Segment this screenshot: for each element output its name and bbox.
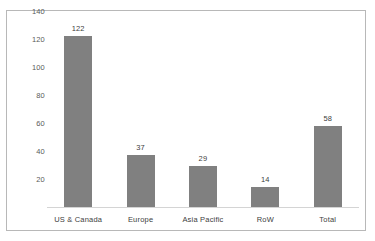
bars-layer: 12237291458 <box>47 11 359 207</box>
x-axis-category-label: RoW <box>234 215 296 224</box>
bar[interactable] <box>251 187 279 207</box>
bar[interactable] <box>314 126 342 207</box>
y-axis-tick-label: 20 <box>11 175 45 184</box>
bar-value-label: 37 <box>136 143 145 152</box>
bar-group: 58 <box>297 11 359 207</box>
x-axis-category-label: Europe <box>109 215 171 224</box>
y-axis-tick-label: 140 <box>11 7 45 16</box>
x-axis-labels: US & CanadaEuropeAsia PacificRoWTotal <box>47 211 359 229</box>
y-axis-tick-label: 40 <box>11 147 45 156</box>
chart-container: 14012010080604020 12237291458 US & Canad… <box>6 10 366 231</box>
x-axis-category-label: Total <box>297 215 359 224</box>
bar-group: 14 <box>234 11 296 207</box>
bar-group: 122 <box>47 11 109 207</box>
y-axis-tick-label: 100 <box>11 63 45 72</box>
y-axis-tick-label: 60 <box>11 119 45 128</box>
x-axis-category-label: US & Canada <box>47 215 109 224</box>
bar-value-label: 122 <box>72 24 85 33</box>
bar[interactable] <box>189 166 217 207</box>
y-axis-tick-label: 80 <box>11 91 45 100</box>
bar-value-label: 14 <box>261 175 270 184</box>
x-axis-category-label: Asia Pacific <box>172 215 234 224</box>
bar-group: 37 <box>109 11 171 207</box>
y-axis: 14012010080604020 <box>9 11 45 230</box>
plot-area: 14012010080604020 12237291458 US & Canad… <box>7 11 365 230</box>
bar-value-label: 58 <box>323 114 332 123</box>
bar[interactable] <box>127 155 155 207</box>
y-axis-tick-label: 120 <box>11 35 45 44</box>
x-axis-baseline <box>47 207 359 208</box>
bar-value-label: 29 <box>199 154 208 163</box>
bar-group: 29 <box>172 11 234 207</box>
bar[interactable] <box>64 36 92 207</box>
